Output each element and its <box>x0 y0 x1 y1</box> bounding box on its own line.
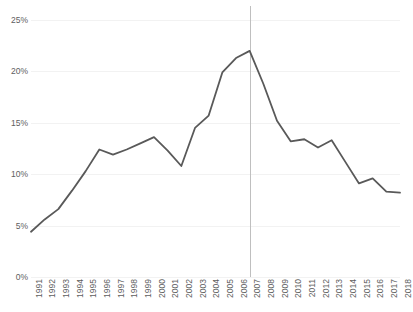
x-axis-tick-label: 2014 <box>349 279 358 298</box>
x-axis-tick-label: 2015 <box>363 279 372 298</box>
x-axis-tick-label: 2012 <box>322 279 331 298</box>
x-axis-tick-label: 2006 <box>240 279 249 298</box>
x-axis-tick-label: 1993 <box>62 279 71 298</box>
x-axis-tick-label: 2013 <box>335 279 344 298</box>
x-axis-tick-label: 1992 <box>48 279 57 298</box>
x-axis-tick-label: 2010 <box>294 279 303 298</box>
x-axis-tick-label: 1994 <box>76 279 85 298</box>
x-axis-tick-label: 1999 <box>144 279 153 298</box>
y-axis-tick-label: 5% <box>16 221 28 230</box>
y-axis-tick-label: 10% <box>11 170 28 179</box>
x-axis-tick-label: 2008 <box>267 279 276 298</box>
x-axis-tick-label: 2005 <box>226 279 235 298</box>
x-axis-tick-label: 1998 <box>130 279 139 298</box>
x-axis-tick-label: 1991 <box>35 279 44 298</box>
y-axis-tick-label: 20% <box>11 67 28 76</box>
y-axis: 0%5%10%15%20%25% <box>0 20 28 277</box>
x-axis-tick-label: 2001 <box>171 279 180 298</box>
y-axis-tick-label: 15% <box>11 118 28 127</box>
series-line <box>31 20 400 277</box>
x-axis-tick-label: 2002 <box>185 279 194 298</box>
x-axis-tick-label: 2007 <box>253 279 262 298</box>
x-axis-tick-label: 2018 <box>404 279 413 298</box>
x-axis-tick-label: 1996 <box>103 279 112 298</box>
plot-area <box>31 20 400 277</box>
gridline-0% <box>31 277 400 278</box>
x-axis-tick-label: 2016 <box>376 279 385 298</box>
x-axis-tick-label: 2000 <box>158 279 167 298</box>
x-axis-tick-label: 2003 <box>199 279 208 298</box>
x-axis-tick-label: 2017 <box>390 279 399 298</box>
y-axis-tick-label: 0% <box>16 273 28 282</box>
y-axis-tick-label: 25% <box>11 16 28 25</box>
x-axis-tick-label: 1995 <box>89 279 98 298</box>
x-axis: 1991199219931994199519961997199819992000… <box>31 279 400 312</box>
x-axis-tick-label: 1997 <box>117 279 126 298</box>
x-axis-tick-label: 2009 <box>281 279 290 298</box>
chart-title <box>96 0 316 2</box>
x-axis-tick-label: 2011 <box>308 279 317 297</box>
x-axis-tick-label: 2004 <box>212 279 221 298</box>
